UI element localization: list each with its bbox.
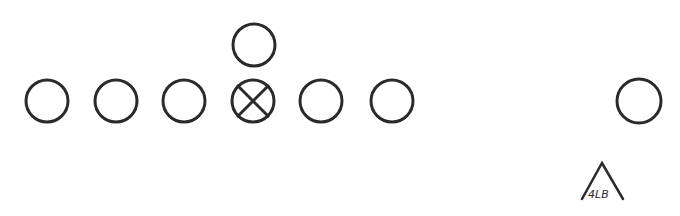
player-circle-2 <box>95 80 137 122</box>
offensive-line <box>26 80 413 122</box>
player-circle-5 <box>300 80 342 122</box>
backfield-player-circle <box>233 24 275 66</box>
player-circle-1 <box>26 80 68 122</box>
linebacker-triangle-icon: 4LB <box>582 163 623 201</box>
linebacker-label: 4LB <box>588 188 609 201</box>
player-circle-3 <box>163 80 205 122</box>
formation-diagram: 4LB <box>0 0 680 216</box>
wide-receiver-circle <box>617 79 661 123</box>
player-circle-6 <box>371 80 413 122</box>
center-player-x-icon <box>232 80 274 122</box>
